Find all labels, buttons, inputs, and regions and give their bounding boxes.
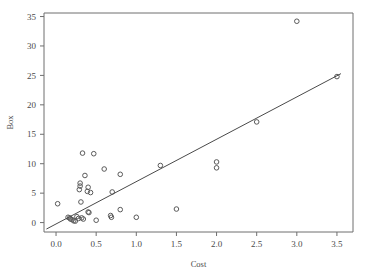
y-tick-label: 35 <box>27 12 37 22</box>
x-tick-label: 3.5 <box>331 239 343 249</box>
axis-frame <box>44 13 353 232</box>
data-point-marker <box>214 166 219 171</box>
x-axis-ticks: 0.00.51.01.52.02.53.03.5 <box>44 232 353 249</box>
data-point-marker <box>78 181 83 186</box>
y-tick-label: 15 <box>27 129 37 139</box>
regression-line <box>46 74 341 229</box>
data-point-marker <box>94 218 99 223</box>
data-point-marker <box>79 200 84 205</box>
data-point-marker <box>55 201 60 206</box>
y-axis-title: Box <box>5 115 15 130</box>
data-point-marker <box>118 207 123 212</box>
data-point-marker <box>118 172 123 177</box>
x-tick-label: 2.5 <box>251 239 263 249</box>
data-point-marker <box>295 19 300 24</box>
data-point-marker <box>134 215 139 220</box>
x-tick-label: 2.0 <box>211 239 223 249</box>
x-tick-label: 0.5 <box>91 239 103 249</box>
data-point-marker <box>254 120 259 125</box>
data-point-marker <box>214 160 219 165</box>
y-tick-label: 10 <box>27 159 37 169</box>
y-axis-ticks: 05101520253035 <box>27 12 44 228</box>
y-tick-label: 20 <box>27 100 37 110</box>
y-tick-label: 25 <box>27 71 37 81</box>
y-tick-label: 30 <box>27 41 37 51</box>
data-point-group <box>55 19 339 223</box>
data-point-marker <box>158 163 163 168</box>
data-point-marker <box>91 151 96 156</box>
x-tick-label: 1.0 <box>131 239 143 249</box>
plot-frame <box>44 13 353 232</box>
regression-line-group <box>46 74 341 229</box>
data-point-marker <box>102 167 107 172</box>
data-point-marker <box>174 207 179 212</box>
x-tick-label: 3.0 <box>291 239 303 249</box>
data-point-marker <box>83 173 88 178</box>
y-tick-label: 0 <box>32 218 37 228</box>
scatter-plot-figure: 0.00.51.01.52.02.53.03.5 05101520253035 … <box>0 0 366 280</box>
x-tick-label: 0.0 <box>50 239 62 249</box>
chart-canvas: 0.00.51.01.52.02.53.03.5 05101520253035 … <box>0 0 366 280</box>
x-tick-label: 1.5 <box>171 239 183 249</box>
y-tick-label: 5 <box>32 188 37 198</box>
data-point-marker <box>80 151 85 156</box>
x-axis-title: Cost <box>191 259 207 269</box>
